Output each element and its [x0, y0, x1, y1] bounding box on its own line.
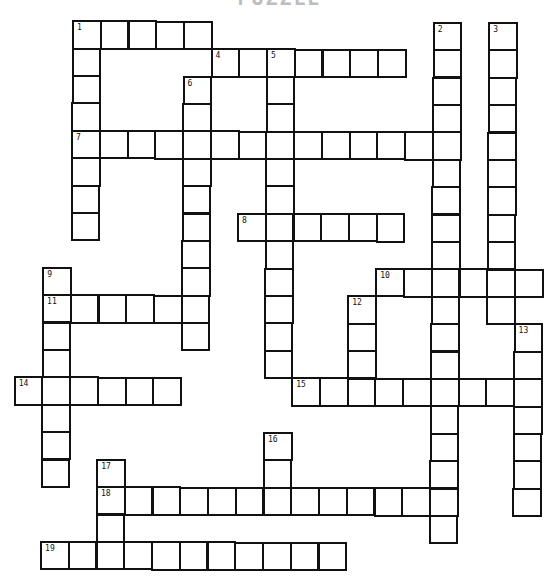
grid-cell[interactable]: 14 [14, 376, 44, 405]
grid-cell[interactable] [376, 213, 406, 242]
grid-cell[interactable] [486, 269, 516, 298]
grid-cell[interactable] [293, 213, 323, 242]
grid-cell[interactable] [376, 131, 406, 160]
grid-cell[interactable] [42, 322, 72, 351]
grid-cell[interactable] [41, 431, 71, 460]
grid-cell[interactable] [69, 376, 99, 405]
grid-cell[interactable] [264, 268, 294, 297]
grid-cell[interactable] [377, 49, 407, 78]
grid-cell[interactable] [72, 48, 102, 77]
grid-cell[interactable]: 6 [183, 76, 213, 105]
grid-cell[interactable] [294, 49, 324, 78]
grid-cell[interactable] [488, 49, 518, 78]
grid-cell[interactable]: 12 [347, 295, 377, 324]
grid-cell[interactable] [349, 49, 379, 78]
grid-cell[interactable] [488, 77, 518, 106]
grid-cell[interactable] [513, 460, 543, 489]
grid-cell[interactable] [42, 349, 72, 378]
grid-cell[interactable]: 18 [96, 486, 126, 515]
grid-cell[interactable] [432, 131, 462, 160]
grid-cell[interactable] [262, 542, 292, 571]
grid-cell[interactable] [182, 213, 212, 242]
grid-cell[interactable] [374, 487, 404, 516]
grid-cell[interactable] [68, 541, 98, 570]
grid-cell[interactable]: 10 [375, 268, 405, 297]
grid-cell[interactable] [347, 378, 377, 407]
grid-cell[interactable]: 9 [42, 267, 72, 296]
grid-cell[interactable] [513, 378, 543, 407]
grid-cell[interactable] [374, 378, 404, 407]
grid-cell[interactable] [321, 131, 351, 160]
grid-cell[interactable] [429, 515, 459, 544]
grid-cell[interactable] [128, 20, 158, 49]
grid-cell[interactable] [266, 76, 296, 105]
grid-cell[interactable] [124, 486, 154, 515]
grid-cell[interactable] [403, 268, 433, 297]
grid-cell[interactable] [404, 131, 434, 160]
grid-cell[interactable] [347, 323, 377, 352]
grid-cell[interactable] [263, 459, 293, 488]
grid-cell[interactable] [431, 296, 461, 325]
grid-cell[interactable]: 11 [42, 294, 72, 323]
grid-cell[interactable]: 3 [488, 22, 518, 51]
grid-cell[interactable]: 16 [263, 432, 293, 461]
grid-cell[interactable] [181, 267, 211, 296]
grid-cell[interactable] [181, 322, 211, 351]
grid-cell[interactable] [348, 213, 378, 242]
grid-cell[interactable] [401, 487, 431, 516]
grid-cell[interactable] [487, 132, 517, 161]
grid-cell[interactable] [127, 130, 157, 159]
grid-cell[interactable] [99, 130, 129, 159]
grid-cell[interactable] [207, 541, 237, 570]
grid-cell[interactable] [265, 185, 295, 214]
grid-cell[interactable] [429, 460, 459, 489]
grid-cell[interactable] [293, 131, 323, 160]
grid-cell[interactable] [266, 103, 296, 132]
grid-cell[interactable] [430, 351, 460, 380]
grid-cell[interactable] [430, 433, 460, 462]
grid-cell[interactable] [513, 433, 543, 462]
grid-cell[interactable] [431, 241, 461, 270]
grid-cell[interactable] [181, 240, 211, 269]
grid-cell[interactable] [263, 487, 293, 516]
grid-cell[interactable] [485, 378, 515, 407]
grid-cell[interactable] [431, 186, 461, 215]
grid-cell[interactable] [41, 376, 71, 405]
grid-cell[interactable] [71, 157, 101, 186]
grid-cell[interactable]: 17 [96, 459, 126, 488]
grid-cell[interactable] [432, 104, 462, 133]
grid-cell[interactable] [179, 487, 209, 516]
grid-cell[interactable] [71, 185, 101, 214]
grid-cell[interactable] [430, 378, 460, 407]
grid-cell[interactable] [97, 377, 127, 406]
grid-cell[interactable] [152, 486, 182, 515]
grid-cell[interactable] [98, 294, 128, 323]
grid-cell[interactable] [290, 487, 320, 516]
grid-cell[interactable]: 13 [514, 323, 544, 352]
grid-cell[interactable] [264, 295, 294, 324]
grid-cell[interactable] [96, 514, 126, 543]
grid-cell[interactable] [487, 241, 517, 270]
grid-cell[interactable] [41, 404, 71, 433]
grid-cell[interactable] [234, 542, 264, 571]
grid-cell[interactable]: 15 [291, 377, 321, 406]
grid-cell[interactable] [71, 212, 101, 241]
grid-cell[interactable] [432, 77, 462, 106]
grid-cell[interactable] [487, 186, 517, 215]
grid-cell[interactable]: 19 [40, 541, 70, 570]
grid-cell[interactable] [182, 103, 212, 132]
grid-cell[interactable] [264, 322, 294, 351]
grid-cell[interactable] [265, 213, 295, 242]
grid-cell[interactable] [458, 378, 488, 407]
grid-cell[interactable] [183, 21, 213, 50]
grid-cell[interactable] [181, 295, 211, 324]
grid-cell[interactable] [488, 104, 518, 133]
grid-cell[interactable] [125, 294, 155, 323]
grid-cell[interactable] [513, 351, 543, 380]
grid-cell[interactable] [207, 487, 237, 516]
grid-cell[interactable] [182, 130, 212, 159]
grid-cell[interactable] [431, 214, 461, 243]
grid-cell[interactable] [318, 487, 348, 516]
grid-cell[interactable]: 2 [433, 22, 463, 51]
grid-cell[interactable] [487, 214, 517, 243]
